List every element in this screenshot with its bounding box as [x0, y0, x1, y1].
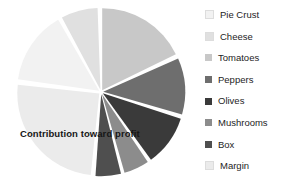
legend-item-label: Olives [218, 96, 244, 106]
legend-item[interactable]: Peppers [203, 69, 298, 91]
legend-item-label: Pie Crust [220, 10, 259, 20]
legend-item[interactable]: Tomatoes [203, 47, 298, 69]
legend-color-swatch [205, 32, 214, 41]
pie-plot-area [0, 0, 196, 182]
legend-item-label: Mushrooms [218, 118, 268, 128]
legend-item-label: Margin [220, 161, 249, 171]
legend-color-swatch [205, 10, 214, 19]
pie-slices-svg [0, 0, 196, 182]
legend-color-swatch [205, 141, 212, 148]
legend-color-swatch [205, 98, 212, 105]
chart-legend: Pie CrustCheeseTomatoesPeppersOlivesMush… [203, 4, 298, 180]
legend-item[interactable]: Cheese [203, 26, 298, 48]
legend-item[interactable]: Pie Crust [203, 4, 298, 26]
legend-color-swatch [205, 161, 214, 170]
legend-item[interactable]: Olives [203, 90, 298, 112]
legend-item[interactable]: Mushrooms [203, 112, 298, 134]
chart-title: Contribution toward profit [20, 128, 180, 139]
legend-item-label: Box [218, 140, 234, 150]
legend-color-swatch [205, 76, 212, 83]
legend-item-label: Cheese [220, 32, 253, 42]
legend-item-label: Peppers [218, 75, 253, 85]
legend-item-label: Tomatoes [218, 53, 259, 63]
legend-color-swatch [205, 119, 212, 126]
pie-chart-figure: Contribution toward profit Pie CrustChee… [0, 0, 298, 182]
legend-item[interactable]: Box [203, 134, 298, 156]
legend-item[interactable]: Margin [203, 155, 298, 177]
legend-color-swatch [205, 54, 212, 61]
